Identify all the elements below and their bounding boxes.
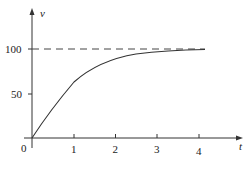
origin-label: 0 [21,142,27,154]
curve-line [32,50,205,139]
y-axis-arrow-icon [30,8,35,15]
x-tick-label-4: 4 [196,145,202,157]
chart: v t 100 50 0 1 2 3 4 [0,0,248,171]
y-axis-label: v [40,7,45,19]
y-tick-label-50: 50 [11,88,23,100]
x-tick-label-1: 1 [71,143,77,155]
x-tick-label-2: 2 [113,143,119,155]
y-tick-label-100: 100 [5,43,22,55]
x-tick-label-3: 3 [154,143,160,155]
x-axis-label: t [239,140,243,152]
